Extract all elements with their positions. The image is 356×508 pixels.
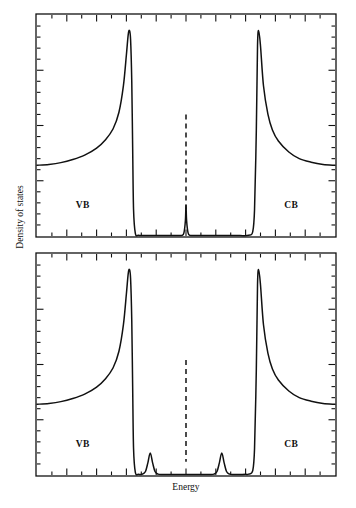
panel-bottom: VB CB bbox=[35, 252, 337, 477]
x-axis-label: Energy bbox=[35, 482, 337, 492]
dos-figure: Density of states VB CB VB CB bbox=[0, 0, 356, 508]
band-label-cb-top: CB bbox=[284, 200, 298, 210]
panel-top: VB CB bbox=[35, 13, 337, 238]
band-label-cb-bottom: CB bbox=[284, 439, 298, 449]
band-label-vb-top: VB bbox=[76, 200, 90, 210]
y-axis-label: Density of states bbox=[15, 157, 25, 277]
band-label-vb-bottom: VB bbox=[76, 439, 90, 449]
